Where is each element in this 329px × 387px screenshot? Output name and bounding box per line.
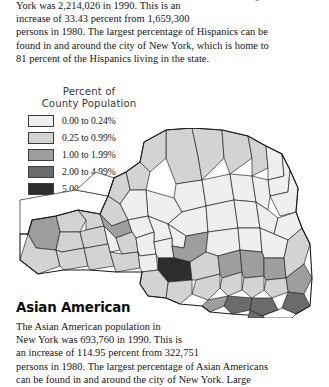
atlas-page: York was 2,214,026 in 1990. This is an i…	[0, 0, 329, 387]
legend-label: 0.00 to 0.24%	[62, 115, 116, 126]
legend-swatch-icon	[28, 115, 54, 127]
hispanic-line-3: persons in 1980. The largest percentage …	[16, 25, 316, 38]
hispanic-line-5: 81 percent of the Hispanics living in th…	[16, 52, 316, 65]
asian-line-2: New York was 693,760 in 1990. This is	[16, 333, 316, 346]
asian-american-paragraph: The Asian American population in New Yor…	[16, 320, 316, 386]
asian-line-4: persons in 1980. The largest percentage …	[16, 360, 316, 373]
county-polygons	[20, 128, 312, 316]
legend-item: 0.00 to 0.24%	[28, 114, 150, 128]
hispanic-line-2: increase of 33.43 percent from 1,659,300	[16, 12, 192, 25]
new-york-county-choropleth-map	[16, 128, 329, 318]
asian-line-3: an increase of 114.95 percent from 322,7…	[16, 346, 316, 359]
asian-line-5: can be found in and around the city of N…	[16, 373, 316, 386]
hispanic-paragraph: York was 2,214,026 in 1990. This is an i…	[16, 0, 316, 65]
hispanic-line-4: found in and around the city of New York…	[16, 39, 316, 52]
legend-title-line-2: County Population	[28, 98, 150, 110]
legend-title-line-1: Percent of	[28, 86, 150, 98]
hispanic-line-1: York was 2,214,026 in 1990. This is an	[16, 0, 192, 12]
legend-title: Percent of County Population	[28, 86, 150, 109]
asian-american-heading: Asian American	[16, 300, 130, 315]
asian-line-1: The Asian American population in	[16, 320, 316, 333]
